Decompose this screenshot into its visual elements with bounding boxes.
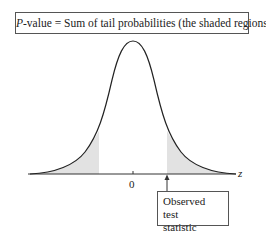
annotation-line-2: statistic bbox=[163, 221, 223, 234]
arrow-head-icon bbox=[165, 175, 170, 181]
observed-test-statistic-box: Observed test statistic bbox=[157, 191, 229, 226]
z-axis-label: z bbox=[238, 167, 242, 179]
bell-curve bbox=[30, 41, 236, 174]
annotation-line-1: Observed test bbox=[163, 195, 223, 221]
zero-tick-label: 0 bbox=[129, 178, 135, 190]
